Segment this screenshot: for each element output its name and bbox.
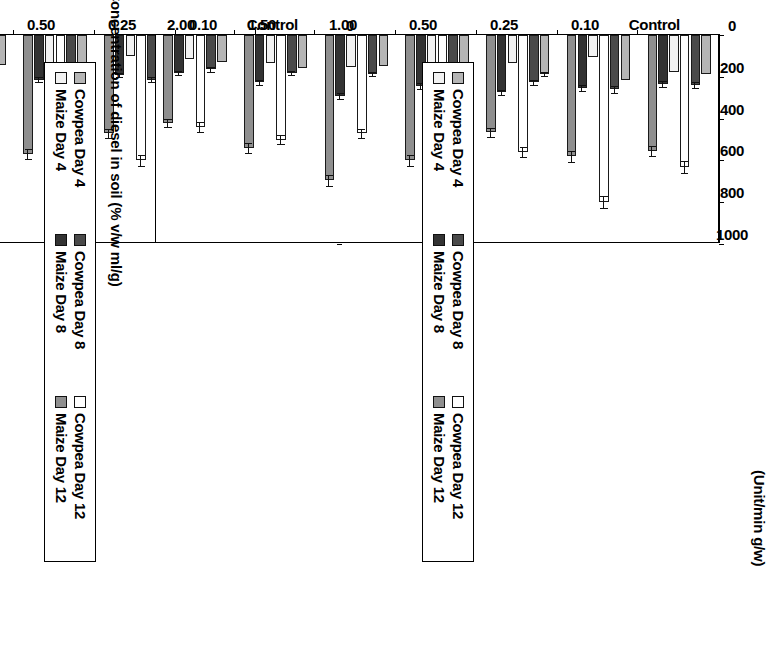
left-category-tick	[94, 30, 95, 35]
error-bar-cap	[692, 88, 699, 89]
bar	[497, 35, 507, 92]
error-bar-cap	[498, 95, 505, 96]
error-bar-cap	[530, 80, 537, 81]
error-bar	[571, 151, 572, 162]
bar	[136, 35, 146, 160]
error-bar-cap	[277, 144, 284, 145]
bar	[588, 35, 598, 57]
bar	[368, 35, 378, 74]
legend-label: Maize Day 8	[54, 251, 70, 333]
error-bar	[361, 129, 362, 138]
right-category-tick	[557, 30, 558, 35]
error-bar-cap	[358, 129, 365, 130]
error-bar	[522, 147, 523, 157]
legend-label: Maize Day 4	[432, 89, 448, 171]
error-bar-cap	[369, 76, 376, 77]
error-bar-cap	[175, 75, 182, 76]
error-bar-cap	[520, 157, 527, 158]
error-bar-cap	[681, 173, 688, 174]
error-bar-cap	[245, 143, 252, 144]
right-value-tick-label: 1000	[716, 226, 748, 243]
bar	[255, 35, 265, 82]
right-category-label: 2.00	[167, 16, 195, 33]
bar	[325, 35, 335, 180]
error-bar-cap	[530, 85, 537, 86]
right-chart-panel: (Unit/min g/w) Cowpea Day 4Cowpea Day 8C…	[382, 0, 764, 648]
legend-swatch-icon	[433, 234, 445, 246]
error-bar-cap	[579, 85, 586, 86]
legend-swatch-icon	[452, 234, 464, 246]
error-bar-cap	[164, 119, 171, 120]
error-bar-cap	[487, 137, 494, 138]
right-value-tick	[719, 119, 724, 120]
right-category-label: 0.10	[571, 16, 599, 33]
error-bar-cap	[256, 80, 263, 81]
bar	[518, 35, 528, 152]
legend-swatch-icon	[74, 234, 86, 246]
bar	[691, 35, 701, 85]
error-bar-cap	[681, 161, 688, 162]
error-bar	[328, 175, 329, 186]
error-bar	[199, 122, 200, 131]
legend-label: Cowpea Day 8	[450, 251, 466, 349]
bar	[405, 35, 415, 160]
error-bar-cap	[600, 208, 607, 209]
error-bar-cap	[487, 128, 494, 129]
legend-label: Cowpea Day 8	[72, 251, 88, 349]
legend-label: Cowpea Day 12	[72, 413, 88, 519]
error-bar-cap	[541, 76, 548, 77]
bar	[163, 35, 173, 123]
error-bar-cap	[568, 151, 575, 152]
right-value-tick-label: 800	[720, 184, 744, 201]
error-bar-cap	[541, 72, 548, 73]
error-bar-cap	[138, 166, 145, 167]
error-bar-cap	[35, 77, 42, 78]
error-bar-cap	[245, 153, 252, 154]
error-bar	[248, 143, 249, 153]
right-value-tick-label: 400	[720, 101, 744, 118]
bar	[669, 35, 679, 72]
right-legend: Cowpea Day 4Cowpea Day 8Cowpea Day 12Mai…	[423, 62, 475, 562]
legend-item: Cowpea Day 12	[72, 396, 88, 552]
error-bar-cap	[611, 86, 618, 87]
error-bar-cap	[407, 166, 414, 167]
legend-label: Cowpea Day 12	[450, 413, 466, 519]
error-bar-cap	[326, 186, 333, 187]
error-bar-cap	[138, 155, 145, 156]
bar	[701, 35, 711, 74]
legend-item: Cowpea Day 12	[450, 396, 466, 552]
legend-swatch-icon	[433, 396, 445, 408]
error-bar-cap	[600, 196, 607, 197]
right-value-axis	[718, 35, 719, 242]
legend-swatch-icon	[55, 396, 67, 408]
bar	[126, 35, 136, 56]
right-category-tick	[314, 30, 315, 35]
error-bar-cap	[197, 122, 204, 123]
left-category-label: 0.50	[28, 16, 56, 33]
error-bar-cap	[288, 71, 295, 72]
legend-swatch-icon	[74, 72, 86, 84]
legend-item: Maize Day 4	[54, 72, 70, 220]
bar	[185, 35, 195, 59]
error-bar-cap	[207, 67, 214, 68]
legend-swatch-icon	[433, 72, 445, 84]
error-bar-cap	[256, 85, 263, 86]
error-bar-cap	[358, 138, 365, 139]
error-bar-cap	[659, 81, 666, 82]
error-bar-cap	[611, 93, 618, 94]
bar	[599, 35, 609, 202]
right-chart-inner: (Unit/min g/w) Cowpea Day 4Cowpea Day 8C…	[382, 0, 764, 648]
error-bar-cap	[337, 99, 344, 100]
bar	[508, 35, 518, 63]
right-category-label: 1.50	[248, 16, 276, 33]
legend-swatch-icon	[452, 396, 464, 408]
bar	[680, 35, 690, 167]
error-bar-cap	[288, 75, 295, 76]
right-category-label: 1.00	[329, 16, 357, 33]
error-bar	[140, 155, 141, 166]
bar	[287, 35, 297, 73]
legend-item: Maize Day 12	[432, 396, 448, 552]
legend-item: Cowpea Day 4	[72, 72, 88, 220]
bar	[276, 35, 286, 140]
